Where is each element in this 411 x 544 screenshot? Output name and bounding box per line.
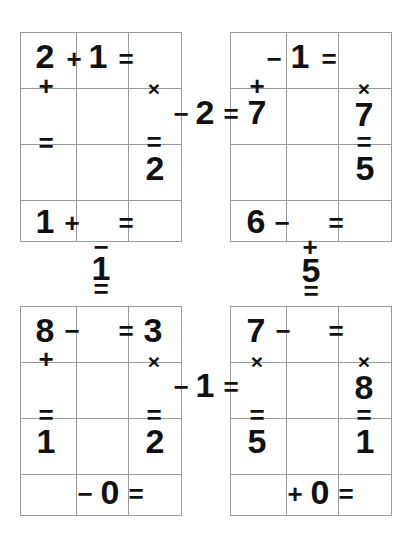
puzzle-glyph[interactable]: = xyxy=(321,46,336,72)
puzzle-glyph[interactable]: × xyxy=(148,78,160,99)
puzzle-glyph[interactable]: 2 xyxy=(36,39,55,73)
puzzle-glyph[interactable]: 1 xyxy=(37,424,56,458)
puzzle-glyph[interactable]: = xyxy=(118,210,133,236)
puzzle-glyph[interactable]: − xyxy=(77,481,92,507)
puzzle-glyph[interactable]: 2 xyxy=(146,424,165,458)
puzzle-glyph[interactable]: 8 xyxy=(355,370,374,404)
grid-line-horizontal xyxy=(21,200,181,201)
puzzle-glyph[interactable]: + xyxy=(64,210,79,236)
puzzle-glyph[interactable]: 2 xyxy=(196,95,215,129)
puzzle-glyph[interactable]: − xyxy=(274,210,289,236)
puzzle-glyph[interactable]: − xyxy=(64,318,79,344)
puzzle-glyph[interactable]: 6 xyxy=(247,204,266,238)
puzzle-glyph[interactable]: 5 xyxy=(248,424,267,458)
puzzle-glyph[interactable]: = xyxy=(328,210,343,236)
puzzle-glyph[interactable]: 0 xyxy=(101,475,120,509)
puzzle-glyph[interactable]: × xyxy=(148,351,160,372)
puzzle-glyph[interactable]: + xyxy=(66,46,81,72)
puzzle-glyph[interactable]: + xyxy=(287,481,302,507)
puzzle-glyph[interactable]: = xyxy=(118,318,133,344)
puzzle-glyph[interactable]: 7 xyxy=(247,313,266,347)
puzzle-glyph[interactable]: − xyxy=(173,101,188,127)
puzzle-glyph[interactable]: = xyxy=(128,481,143,507)
puzzle-glyph[interactable]: − xyxy=(173,374,188,400)
puzzle-glyph[interactable]: = xyxy=(38,130,53,156)
puzzle-glyph[interactable]: 7 xyxy=(248,95,267,129)
puzzle-glyph[interactable]: = xyxy=(93,276,108,302)
puzzle-glyph[interactable]: 1 xyxy=(356,424,375,458)
puzzle-glyph[interactable]: × xyxy=(251,351,263,372)
puzzle-glyph[interactable]: + xyxy=(38,73,53,99)
grid-line-horizontal xyxy=(231,200,391,201)
puzzle-glyph[interactable]: 1 xyxy=(36,204,55,238)
puzzle-glyph[interactable]: = xyxy=(223,374,238,400)
puzzle-canvas: 2+1=+×==21+=−1=+×7=56−=8−=3+×=1=2−0=7−=×… xyxy=(0,0,411,544)
puzzle-glyph[interactable]: = xyxy=(223,101,238,127)
puzzle-glyph[interactable]: 1 xyxy=(89,39,108,73)
puzzle-glyph[interactable]: − xyxy=(266,46,281,72)
puzzle-glyph[interactable]: 7 xyxy=(355,97,374,131)
puzzle-glyph[interactable]: 1 xyxy=(291,39,310,73)
puzzle-glyph[interactable]: = xyxy=(118,46,133,72)
puzzle-glyph[interactable]: = xyxy=(338,481,353,507)
puzzle-glyph[interactable]: 5 xyxy=(356,151,375,185)
puzzle-glyph[interactable]: = xyxy=(303,278,318,304)
puzzle-glyph[interactable]: − xyxy=(275,318,290,344)
puzzle-glyph[interactable]: 1 xyxy=(196,368,215,402)
puzzle-glyph[interactable]: + xyxy=(38,346,53,372)
puzzle-glyph[interactable]: = xyxy=(328,318,343,344)
puzzle-glyph[interactable]: 0 xyxy=(311,475,330,509)
puzzle-glyph[interactable]: 3 xyxy=(144,313,163,347)
puzzle-glyph[interactable]: 8 xyxy=(36,313,55,347)
puzzle-glyph[interactable]: 2 xyxy=(146,151,165,185)
